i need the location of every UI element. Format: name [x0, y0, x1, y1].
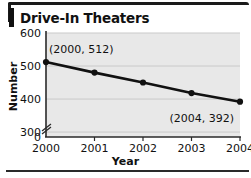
- x-tick-label: 2002: [129, 142, 157, 155]
- plot-area: 6005004003000 20002001200220032004 (2000…: [0, 0, 251, 178]
- data-point-marker: [237, 99, 243, 105]
- data-point-marker: [43, 59, 49, 65]
- x-tick-label: 2000: [32, 142, 60, 155]
- y-tick-label: 500: [20, 60, 41, 73]
- data-point-marker: [140, 79, 146, 85]
- data-annotation-label: (2004, 392): [169, 112, 234, 125]
- data-point-marker: [188, 90, 194, 96]
- x-tick-labels: 20002001200220032004: [32, 142, 251, 155]
- y-tick-labels: 6005004003000: [20, 27, 41, 144]
- data-annotation-label: (2000, 512): [49, 43, 114, 56]
- x-tick-label: 2003: [178, 142, 206, 155]
- x-tick-label: 2004: [226, 142, 251, 155]
- y-tick-label: 400: [20, 93, 41, 106]
- y-tick-label: 600: [20, 27, 41, 40]
- data-point-marker: [91, 70, 97, 76]
- chart-figure: Drive-In Theaters Number Year 6005004003…: [0, 0, 251, 178]
- x-tick-label: 2001: [81, 142, 109, 155]
